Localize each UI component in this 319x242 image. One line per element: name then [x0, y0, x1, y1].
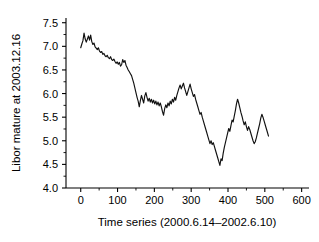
- y-tick-label: 5.0: [43, 135, 58, 147]
- y-tick-label: 7.0: [43, 40, 58, 52]
- y-tick-label: 4.0: [43, 182, 58, 194]
- x-axis-ticks: [81, 188, 302, 192]
- x-tick-label: 600: [292, 194, 310, 206]
- data-series-line: [81, 33, 269, 165]
- x-tick-label: 100: [108, 194, 126, 206]
- y-tick-label: 7.5: [43, 17, 58, 29]
- y-axis-tick-labels: 4.04.55.05.56.06.57.07.5: [43, 17, 58, 194]
- line-chart: 4.04.55.05.56.06.57.07.5 010020030040050…: [0, 0, 319, 242]
- y-tick-label: 4.5: [43, 158, 58, 170]
- x-tick-label: 400: [219, 194, 237, 206]
- x-tick-label: 300: [182, 194, 200, 206]
- x-tick-label: 0: [78, 194, 84, 206]
- y-axis-title: Libor mature at 2003.12.16: [10, 34, 22, 172]
- x-axis-tick-labels: 0100200300400500600: [78, 194, 311, 206]
- y-tick-label: 5.5: [43, 111, 58, 123]
- x-axis-title: Time series (2000.6.14–2002.6.10): [98, 216, 277, 228]
- x-tick-label: 200: [145, 194, 163, 206]
- chart-figure: 4.04.55.05.56.06.57.07.5 010020030040050…: [0, 0, 319, 242]
- x-tick-label: 500: [256, 194, 274, 206]
- y-axis-ticks: [62, 23, 66, 188]
- y-tick-label: 6.0: [43, 88, 58, 100]
- y-tick-label: 6.5: [43, 64, 58, 76]
